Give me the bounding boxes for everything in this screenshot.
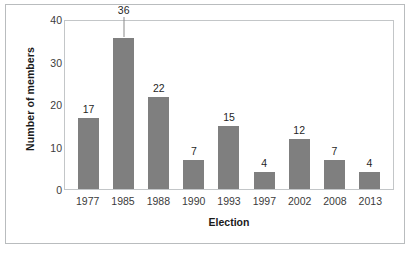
bar-group: 4 [352,21,387,189]
x-axis-tick-label: 1988 [141,195,176,211]
x-axis-tick-label: 2002 [282,195,317,211]
bar-series: 17362271541274 [71,21,387,189]
bar-value-label: 22 [141,82,176,94]
x-axis-tick-label: 2008 [317,195,352,211]
x-axis-tick-labels: 197719851988199019931997200220082013 [64,195,394,211]
bar-value-label: 12 [282,124,317,136]
bar-group: 22 [141,21,176,189]
bar[interactable] [254,172,275,189]
bar[interactable] [218,126,239,189]
bar-connector-line [123,17,124,37]
x-axis-tick-label: 1977 [70,195,105,211]
bar[interactable] [113,38,134,189]
bar-value-label: 4 [352,157,387,169]
bar-group: 7 [317,21,352,189]
bar-group: 12 [282,21,317,189]
bar-value-label: 7 [176,145,211,157]
bar-group: 15 [211,21,246,189]
y-axis-tick-label: 40 [28,14,62,26]
y-axis-tick-label: 0 [28,184,62,196]
bar-group: 4 [247,21,282,189]
bar-group: 7 [176,21,211,189]
x-axis-tick-label: 1985 [105,195,140,211]
x-axis-tick-label: 1997 [247,195,282,211]
x-axis-title: Election [64,216,394,228]
bar-value-label: 17 [71,103,106,115]
x-axis-tick-labels-inner: 197719851988199019931997200220082013 [70,195,388,211]
y-axis-tick-label: 10 [28,142,62,154]
bar-value-label: 4 [247,157,282,169]
bar-value-label: 15 [211,111,246,123]
x-axis-tick-label: 1993 [211,195,246,211]
bar[interactable] [78,118,99,189]
y-axis-tick-label: 30 [28,57,62,69]
plot-area: 17362271541274 [64,20,394,190]
bar[interactable] [324,160,345,189]
bar-group: 36 [106,21,141,189]
bar-value-label: 7 [317,145,352,157]
plot-inner: 17362271541274 [65,21,393,189]
chart-figure: Number of members 010203040 173622715412… [5,4,405,244]
x-axis-tick-label: 1990 [176,195,211,211]
y-axis-tick-labels: 010203040 [28,20,62,190]
bar[interactable] [289,139,310,189]
y-axis-tick-label: 20 [28,99,62,111]
bar[interactable] [148,97,169,189]
x-axis-tick-label: 2013 [353,195,388,211]
bar[interactable] [359,172,380,189]
bar-group: 17 [71,21,106,189]
bar[interactable] [183,160,204,189]
bar-value-label: 36 [106,4,141,16]
